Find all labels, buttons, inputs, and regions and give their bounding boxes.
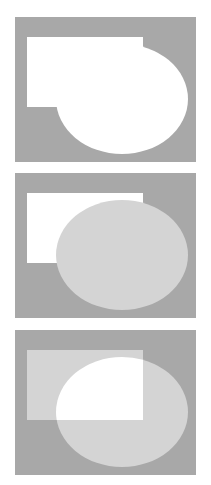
panel-difference-canvas: [15, 173, 196, 318]
panel-intersection: [15, 330, 196, 475]
set-operations-figure: [0, 0, 211, 485]
panel-union-canvas: [15, 17, 196, 162]
panel-intersection-canvas: [15, 330, 196, 475]
panel-difference: [15, 173, 196, 318]
difference-ellipse-shape: [56, 200, 188, 310]
panel-union: [15, 17, 196, 162]
union-ellipse-shape: [56, 44, 188, 154]
